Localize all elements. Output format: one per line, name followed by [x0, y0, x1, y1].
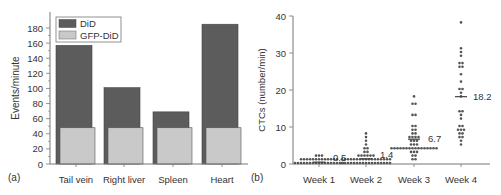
data-point: [380, 162, 383, 165]
y-tick-label: 10: [275, 122, 286, 133]
data-point: [458, 62, 461, 65]
data-point: [458, 110, 461, 113]
data-point: [368, 162, 371, 165]
data-point: [402, 147, 405, 150]
data-point: [300, 158, 303, 161]
y-tick-label: 40: [32, 128, 43, 139]
data-point: [359, 162, 362, 165]
figure: 020406080100120140160180 Tail veinRight …: [0, 0, 501, 195]
data-point: [461, 88, 464, 91]
data-point: [371, 162, 374, 165]
y-tick-label: 0: [281, 159, 286, 170]
data-point: [353, 162, 356, 165]
bar-gfp-did: [157, 128, 192, 164]
data-point: [460, 143, 463, 146]
x-tick-labels-a: Tail veinRight liverSpleenHeart: [59, 164, 234, 185]
y-tick-label: 180: [27, 23, 43, 34]
mean-label: 0.5: [333, 152, 346, 163]
data-point: [414, 136, 417, 139]
data-point: [413, 95, 416, 98]
y-tick-label: 60: [32, 113, 43, 124]
legend-a: DiD GFP-DiD: [56, 17, 121, 42]
data-point: [318, 158, 321, 161]
data-point: [362, 162, 365, 165]
data-point: [410, 143, 413, 146]
data-point: [410, 140, 413, 143]
x-tick-labels-b: Week 1Week 2Week 3Week 4: [303, 164, 477, 185]
y-tick-label: 40: [275, 11, 286, 22]
data-point: [423, 147, 426, 150]
data-point: [377, 162, 380, 165]
data-point: [405, 147, 408, 150]
y-tick-label: 140: [27, 53, 43, 64]
data-point: [327, 158, 330, 161]
data-point: [417, 147, 420, 150]
data-point: [411, 125, 414, 128]
legend-label-gfp-did: GFP-DiD: [80, 30, 119, 41]
data-point: [356, 158, 359, 161]
y-tick-label: 100: [27, 83, 43, 94]
data-point: [357, 154, 360, 157]
data-point: [369, 154, 372, 157]
data-point: [360, 154, 363, 157]
bar-gfp-did: [206, 128, 241, 164]
data-point: [460, 80, 463, 83]
data-point: [416, 140, 419, 143]
data-point: [460, 47, 463, 50]
data-point: [350, 158, 353, 161]
data-point: [366, 154, 369, 157]
data-point: [413, 140, 416, 143]
data-point: [411, 103, 414, 106]
data-point: [460, 51, 463, 54]
data-point: [309, 162, 312, 165]
x-tick-label: Week 1: [303, 174, 335, 185]
data-point: [324, 158, 327, 161]
x-tick-label: Spleen: [158, 174, 188, 185]
data-point: [321, 158, 324, 161]
data-point: [312, 158, 315, 161]
data-point: [460, 140, 463, 143]
data-point: [411, 158, 414, 161]
data-point: [458, 125, 461, 128]
data-point: [413, 143, 416, 146]
data-point: [461, 62, 464, 65]
data-point: [435, 147, 438, 150]
legend-swatch-did: [59, 20, 76, 28]
data-point: [414, 125, 417, 128]
data-point: [396, 147, 399, 150]
data-point: [414, 154, 417, 157]
data-point: [383, 162, 386, 165]
data-point: [410, 151, 413, 154]
data-point: [315, 158, 318, 161]
y-tick-label: 160: [27, 38, 43, 49]
data-point: [306, 158, 309, 161]
data-point: [411, 147, 414, 150]
data-point: [414, 128, 417, 131]
bar-chart-panel-a: 020406080100120140160180 Tail veinRight …: [8, 12, 248, 185]
data-point: [460, 128, 463, 131]
data-point: [365, 132, 368, 135]
data-point: [463, 128, 466, 131]
data-point: [408, 147, 411, 150]
data-point: [306, 162, 309, 165]
data-point: [303, 162, 306, 165]
data-point: [460, 73, 463, 76]
y-ticks-a: 020406080100120140160180: [27, 23, 50, 170]
x-tick-label: Week 3: [398, 174, 430, 185]
data-point: [350, 162, 353, 165]
data-point: [408, 136, 411, 139]
data-point: [411, 132, 414, 135]
data-point: [460, 117, 463, 120]
data-point: [411, 154, 414, 157]
x-tick-label: Week 2: [350, 174, 382, 185]
data-point: [321, 154, 324, 157]
data-point: [458, 88, 461, 91]
data-point: [411, 128, 414, 131]
data-point: [414, 103, 417, 106]
data-point: [347, 162, 350, 165]
data-point: [416, 151, 419, 154]
data-point: [429, 147, 432, 150]
data-point: [294, 162, 297, 165]
mean-label: 18.2: [473, 91, 492, 102]
data-point: [318, 154, 321, 157]
